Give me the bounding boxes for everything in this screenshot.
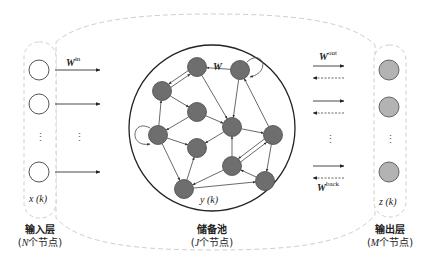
reservoir-edge	[187, 157, 194, 180]
reservoir-node	[175, 180, 194, 199]
output-layer-count: (M个节点)	[358, 236, 422, 249]
self-loop-n5	[135, 126, 150, 144]
output-vector-label: z (k)	[379, 196, 397, 207]
reservoir-edge	[206, 116, 224, 124]
input-weight-arrows	[55, 70, 100, 172]
input-layer-count: (N个节点)	[10, 236, 70, 249]
reservoir-edge	[193, 170, 224, 185]
output-node	[379, 60, 399, 80]
reservoir-edge	[167, 138, 188, 145]
reservoir-node	[223, 118, 242, 137]
output-node	[379, 97, 399, 117]
reservoir-edges	[159, 68, 272, 188]
feedback-weight-arrows	[313, 78, 344, 178]
output-node	[379, 162, 399, 182]
reservoir-node	[188, 103, 207, 122]
reservoir-node	[149, 126, 168, 145]
output-ellipsis: ⋮	[385, 133, 396, 146]
reservoir-edge	[241, 142, 267, 162]
reservoir-node	[188, 58, 207, 77]
reservoir-edge	[241, 129, 263, 133]
reservoir-count: (J个节点)	[182, 236, 242, 249]
reservoir-caption: 储备池 (J个节点)	[182, 223, 242, 249]
output-weight-arrows	[313, 66, 344, 166]
input-layer-title: 输入层	[10, 223, 70, 236]
reservoir-node	[188, 139, 207, 158]
output-layer-caption: 输出层 (M个节点)	[358, 223, 422, 249]
reservoir-node	[223, 157, 242, 176]
reservoir-edge	[233, 79, 238, 117]
reservoir-edge	[193, 182, 255, 188]
input-layer-caption: 输入层 (N个节点)	[10, 223, 70, 249]
reservoir-edge	[238, 139, 264, 159]
reservoir-vector-label: y (k)	[200, 194, 218, 205]
reservoir-edge	[205, 132, 224, 143]
output-arrow-ellipsis: ⋮	[325, 133, 336, 146]
input-ellipsis: ⋮	[35, 131, 46, 144]
reservoir-node	[256, 172, 275, 191]
input-node	[29, 94, 49, 114]
reservoir-node	[264, 126, 283, 145]
output-weight-label: Wout	[319, 50, 337, 62]
input-vector-label: x (k)	[29, 193, 47, 204]
input-node	[29, 60, 49, 80]
reservoir-edge	[267, 144, 272, 171]
reservoir-edge	[170, 96, 189, 107]
reservoir-node	[231, 61, 250, 80]
input-arrow-ellipsis: ⋮	[74, 131, 85, 144]
reservoir-title: 储备池	[182, 223, 242, 236]
reservoir-edge	[162, 144, 180, 181]
reservoir-node	[153, 82, 172, 101]
feedback-weight-label: Wback	[317, 181, 339, 193]
input-weight-label: Win	[66, 56, 80, 68]
input-node	[29, 162, 49, 182]
reservoir-edge	[159, 100, 161, 125]
reservoir-edge	[241, 170, 257, 177]
reservoir-edge	[166, 117, 189, 130]
reservoir-nodes	[149, 58, 283, 199]
output-layer-title: 输出层	[358, 223, 422, 236]
reservoir-weight-label: W	[213, 61, 222, 72]
reservoir-edge	[244, 78, 268, 126]
